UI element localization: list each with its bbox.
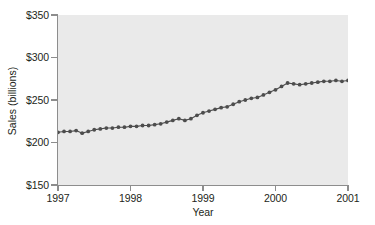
y-axis-tick [51,57,57,58]
data-point [243,98,247,102]
data-point [207,109,211,113]
data-point [219,106,223,110]
y-axis-tick [51,142,57,143]
y-axis-tick [51,99,57,100]
data-point [117,125,121,129]
data-point [280,85,284,89]
data-point [189,117,193,121]
y-axis-tick [51,184,57,185]
data-point [249,96,253,100]
x-axis-tick-label: 2000 [256,192,296,204]
x-axis-tick [57,186,58,191]
data-point [177,117,181,121]
data-point [74,129,78,133]
data-point [171,119,175,123]
data-point [231,102,235,106]
chart-figure: $350$300$250$200$150 1997199819992000200… [0,0,375,225]
data-point [262,93,266,97]
data-point [298,83,302,87]
data-point [92,128,96,132]
data-point [129,124,133,128]
data-point [346,79,348,83]
plot-panel [58,15,348,185]
data-point [286,81,290,85]
x-axis-tick [347,186,348,191]
data-point [213,107,217,111]
x-axis-tick-label: 1999 [183,192,223,204]
data-point [334,79,338,83]
data-point [98,127,102,131]
data-point [201,111,205,115]
data-point [195,113,199,117]
data-point [237,100,241,104]
x-axis-tick [202,186,203,191]
y-axis-tick-label: $350 [1,10,49,21]
data-point [147,124,151,128]
x-axis-title: Year [58,206,348,218]
data-point [310,81,314,85]
y-axis-title-text: Sales (billions) [5,46,19,156]
data-point [159,122,163,126]
data-point [322,79,326,83]
y-axis-tick [51,14,57,15]
data-point [255,96,259,100]
data-point [135,124,139,128]
data-point [141,124,145,128]
data-point [304,82,308,86]
sales-line-series [58,15,348,185]
x-axis-tick-label: 2001 [328,192,368,204]
data-point [68,130,72,134]
x-axis-tick [130,186,131,191]
data-point [110,126,114,130]
data-point [123,125,127,129]
y-axis-title: Sales (billions) [5,46,19,156]
data-point [328,79,332,83]
data-point [183,119,187,123]
data-point [292,82,296,86]
data-point [165,120,169,124]
y-axis-line [57,14,58,186]
x-axis-tick-label: 1997 [38,192,78,204]
data-point [80,131,84,135]
data-point [340,79,344,83]
data-point [316,80,320,84]
data-point [153,123,157,127]
data-point [86,130,90,134]
data-point [225,105,229,109]
y-axis-tick-label: $150 [1,180,49,191]
series-line [58,80,348,133]
x-axis-tick [275,186,276,191]
data-point [104,126,108,130]
data-point [268,90,272,94]
x-axis-tick-label: 1998 [111,192,151,204]
data-point [62,130,66,134]
series-markers [58,79,348,136]
data-point [274,88,278,92]
